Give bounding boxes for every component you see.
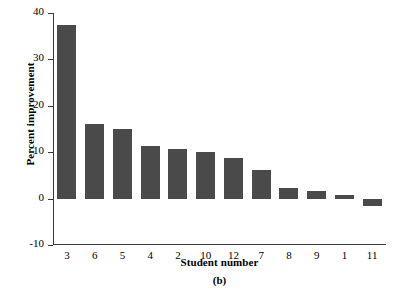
y-tick-label: 40 [33, 5, 44, 17]
y-tick: 30 [48, 59, 53, 60]
y-tick: 0 [48, 199, 53, 200]
bar [252, 170, 271, 199]
bar [224, 158, 243, 199]
x-axis-line [53, 244, 386, 245]
bar [335, 195, 354, 198]
y-tick-label: 30 [33, 51, 44, 63]
y-tick-label: 10 [33, 144, 44, 156]
bar [279, 188, 298, 198]
bar [113, 129, 132, 199]
y-tick: 20 [48, 106, 53, 107]
bar [363, 199, 382, 206]
x-axis-title: Student number [53, 256, 386, 268]
bar [85, 124, 104, 198]
panel-label: (b) [53, 274, 386, 286]
y-tick-label: 20 [33, 98, 44, 110]
y-tick-label: -10 [29, 237, 44, 249]
bar [196, 152, 215, 198]
y-tick-label: 0 [39, 191, 45, 203]
plot-area: 403020100-10 365421012789111 [53, 13, 386, 245]
y-tick: -10 [48, 245, 53, 246]
y-axis-line [53, 13, 54, 245]
bar-chart-figure: Percent improvement 403020100-10 3654210… [0, 0, 394, 298]
bar [141, 146, 160, 198]
bar [57, 25, 76, 199]
y-tick: 40 [48, 13, 53, 14]
bar [307, 191, 326, 198]
y-tick: 10 [48, 152, 53, 153]
bar [168, 149, 187, 199]
